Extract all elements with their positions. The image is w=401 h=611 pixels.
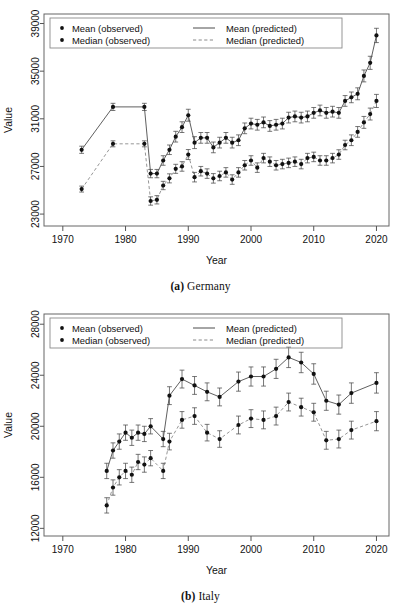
legend-point-marker-icon [60, 38, 64, 42]
data-point [337, 111, 341, 115]
data-point [180, 164, 184, 168]
y-tick-label: 39000 [31, 9, 42, 37]
legend-label: Median (observed) [72, 35, 150, 46]
data-point [330, 156, 334, 160]
y-tick-label: 31000 [31, 104, 42, 132]
data-point [349, 428, 353, 432]
legend-point-marker-icon [60, 26, 64, 30]
data-point [205, 171, 209, 175]
data-point [192, 175, 196, 179]
data-point [274, 123, 278, 127]
legend-label: Median (predicted) [226, 335, 304, 346]
data-point [287, 400, 291, 404]
legend-point-marker-icon [60, 326, 64, 330]
x-tick-label: 2000 [240, 544, 263, 555]
data-point [249, 121, 253, 125]
data-point [230, 177, 234, 181]
data-point [105, 469, 109, 473]
data-point [280, 162, 284, 166]
data-point [142, 105, 146, 109]
data-point [205, 390, 209, 394]
data-point [268, 124, 272, 128]
data-point [324, 158, 328, 162]
data-point [123, 469, 127, 473]
x-tick-label: 2000 [240, 234, 263, 245]
data-point [192, 414, 196, 418]
legend-label: Median (predicted) [226, 35, 304, 46]
x-tick-label: 1970 [52, 544, 75, 555]
data-point [161, 469, 165, 473]
y-tick-label: 28000 [31, 310, 42, 338]
data-point [362, 74, 366, 78]
data-point [142, 142, 146, 146]
data-point [324, 438, 328, 442]
data-point [224, 136, 228, 140]
caption-name-germany: Germany [187, 280, 231, 292]
data-point [211, 145, 215, 149]
caption-label-a: (a) [170, 280, 184, 292]
data-point [218, 141, 222, 145]
data-point [356, 130, 360, 134]
data-point [174, 135, 178, 139]
data-point [268, 160, 272, 164]
y-tick-label: 27000 [31, 152, 42, 180]
data-point [255, 123, 259, 127]
data-point [293, 160, 297, 164]
data-point [312, 372, 316, 376]
y-tick-label: 35000 [31, 57, 42, 85]
data-point [167, 148, 171, 152]
y-tick-label: 24000 [31, 361, 42, 389]
data-point [149, 456, 153, 460]
data-point [349, 391, 353, 395]
y-axis-title: Value [2, 107, 14, 133]
data-point [299, 405, 303, 409]
data-point [343, 99, 347, 103]
data-point [205, 431, 209, 435]
y-tick-label: 12000 [31, 514, 42, 542]
data-point [136, 431, 140, 435]
data-point [318, 158, 322, 162]
legend-label: Mean (observed) [72, 23, 143, 34]
x-tick-label: 1990 [177, 544, 200, 555]
x-tick-label: 2020 [365, 544, 388, 555]
data-point [123, 431, 127, 435]
legend-label: Mean (predicted) [226, 323, 297, 334]
data-point [261, 374, 265, 378]
data-point [287, 161, 291, 165]
data-point [192, 383, 196, 387]
data-point [324, 399, 328, 403]
y-tick-label: 23000 [31, 200, 42, 228]
data-point [305, 114, 309, 118]
legend-label: Median (observed) [72, 335, 150, 346]
data-point [236, 380, 240, 384]
data-point [337, 402, 341, 406]
data-point [230, 141, 234, 145]
data-point [218, 174, 222, 178]
x-tick-label: 2010 [303, 544, 326, 555]
data-point [199, 169, 203, 173]
figure-caption-germany: (a) Germany [0, 280, 401, 292]
data-point [312, 155, 316, 159]
data-point [211, 176, 215, 180]
data-point [374, 33, 378, 37]
data-point [236, 423, 240, 427]
data-point [155, 171, 159, 175]
data-point [374, 419, 378, 423]
chart-germany[interactable]: 2300027000310003500039000197019801990200… [0, 0, 401, 282]
data-point [149, 199, 153, 203]
data-point [261, 120, 265, 124]
data-point [218, 437, 222, 441]
data-point [243, 126, 247, 130]
y-axis-title: Value [2, 412, 14, 438]
chart-italy[interactable]: 1200016000200002400028000197019801990200… [0, 300, 401, 592]
data-point [287, 355, 291, 359]
data-point [142, 462, 146, 466]
data-point [224, 170, 228, 174]
data-point [299, 360, 303, 364]
data-point [293, 114, 297, 118]
data-point [318, 108, 322, 112]
series-line-mean [107, 357, 377, 471]
data-point [236, 170, 240, 174]
series-points-mean [104, 347, 379, 478]
data-point [111, 448, 115, 452]
